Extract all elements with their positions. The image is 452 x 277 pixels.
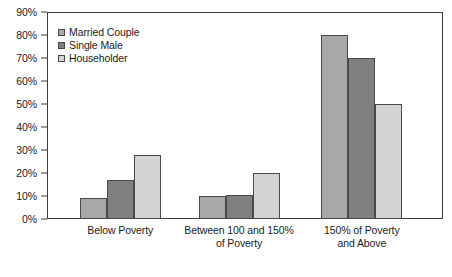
legend-swatch-icon — [58, 29, 65, 36]
bar — [226, 195, 253, 219]
legend-item: Single Male — [58, 39, 139, 51]
x-axis-category-labels: Below PovertyBetween 100 and 150% of Pov… — [47, 224, 443, 270]
legend-label: Single Male — [69, 40, 123, 51]
y-tick-label: 30% — [16, 145, 37, 155]
legend-swatch-icon — [58, 42, 65, 49]
bar — [80, 198, 107, 219]
bar-chart: 0%10%20%30%40%50%60%70%80%90% Married Co… — [0, 0, 452, 277]
y-tick-label: 20% — [16, 168, 37, 178]
bar — [375, 104, 402, 219]
y-axis: 0%10%20%30%40%50%60%70%80%90% — [0, 12, 47, 219]
x-category-label: Below Poverty — [87, 224, 153, 237]
y-tick-label: 90% — [16, 7, 37, 17]
y-tick-label: 0% — [22, 214, 37, 224]
y-tick-label: 50% — [16, 99, 37, 109]
legend-swatch-icon — [58, 55, 65, 62]
x-category-label: Between 100 and 150% of Poverty — [184, 224, 294, 249]
bar — [134, 155, 161, 219]
x-category-label: 150% of Poverty and Above — [321, 224, 402, 249]
legend-item: Married Couple — [58, 26, 139, 38]
bar — [253, 173, 280, 219]
y-tick-label: 80% — [16, 30, 37, 40]
y-tick-label: 60% — [16, 76, 37, 86]
chart-legend: Married CoupleSingle MaleHouseholder — [58, 26, 139, 64]
legend-item: Householder — [58, 52, 139, 64]
bar — [107, 180, 134, 219]
legend-label: Married Couple — [69, 27, 139, 38]
y-tick-label: 10% — [16, 191, 37, 201]
bar — [199, 196, 226, 219]
bar — [348, 58, 375, 219]
y-tick-label: 70% — [16, 53, 37, 63]
legend-label: Householder — [69, 53, 127, 64]
y-tick-label: 40% — [16, 122, 37, 132]
bar — [321, 35, 348, 219]
